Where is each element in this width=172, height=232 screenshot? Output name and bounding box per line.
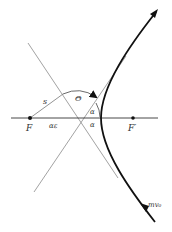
hyperbolic-orbit-curve [101, 12, 156, 222]
asymptote-line-1 [28, 43, 118, 178]
focus-point-F [28, 116, 32, 120]
label-F-prime: F′ [127, 123, 136, 133]
alpha-angle-arc [96, 103, 100, 117]
label-alpha-epsilon: αε [49, 122, 58, 130]
outgoing-arrow-icon [150, 9, 158, 18]
focus-point-F-prime [131, 116, 135, 120]
label-F: F [25, 123, 33, 133]
label-alpha-upper: α [90, 108, 95, 116]
label-theta: Θ [75, 94, 82, 103]
label-alpha-lower: α [90, 121, 95, 129]
diagram-canvas: F F′ s αε Θ α α mv₀ [0, 0, 172, 232]
label-mv0: mv₀ [148, 201, 162, 209]
label-s: s [43, 97, 47, 106]
